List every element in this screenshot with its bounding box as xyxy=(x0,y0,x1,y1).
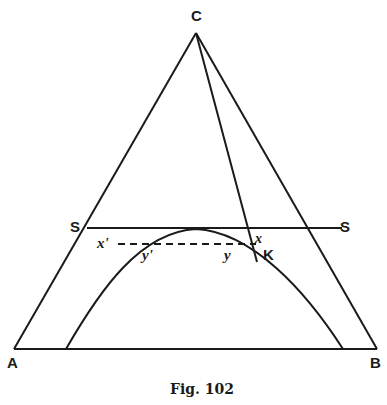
geometry-diagram: C A B S S x' y' y x K Fig. 102 xyxy=(0,0,387,405)
label-B: B xyxy=(370,354,381,371)
side-CB xyxy=(196,33,377,349)
label-K: K xyxy=(263,246,274,263)
label-C: C xyxy=(191,7,202,24)
side-CA xyxy=(14,33,196,349)
label-y-prime: y' xyxy=(140,247,153,263)
label-y: y xyxy=(222,247,231,263)
label-x-prime: x' xyxy=(96,235,109,251)
figure-caption: Fig. 102 xyxy=(170,381,234,397)
label-A: A xyxy=(7,354,18,371)
label-S-right: S xyxy=(340,218,350,235)
label-x: x xyxy=(254,231,262,246)
label-S-left: S xyxy=(70,218,80,235)
